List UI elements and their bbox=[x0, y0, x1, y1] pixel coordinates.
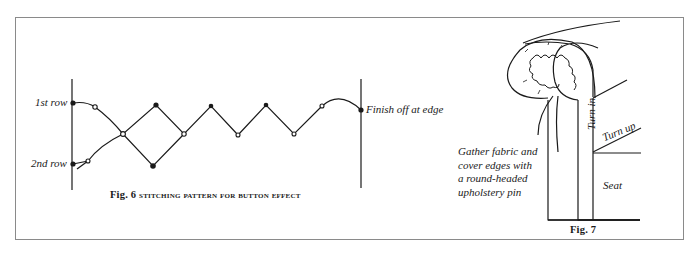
fig7-caption: Fig. 7 bbox=[570, 224, 596, 235]
label-turn-in: Turn in bbox=[586, 98, 597, 130]
first-row-stitch bbox=[73, 99, 361, 135]
note-line: cover edges with bbox=[458, 159, 537, 173]
arm-top-line bbox=[523, 21, 620, 43]
note-line: Gather fabric and bbox=[458, 145, 537, 159]
pointer-line-2 bbox=[557, 96, 559, 152]
label-second-row: 2nd row bbox=[31, 158, 67, 169]
label-finish-off: Finish off at edge bbox=[366, 104, 443, 115]
fig6-caption-text: Stitching pattern for button effect bbox=[139, 189, 300, 200]
label-first-row: 1st row bbox=[35, 97, 67, 108]
label-seat: Seat bbox=[603, 180, 622, 191]
pointer-line-1 bbox=[538, 96, 553, 135]
fig7-note: Gather fabric and cover edges with a rou… bbox=[458, 145, 537, 199]
fig6-caption: Fig. 6 Stitching pattern for button effe… bbox=[110, 189, 301, 200]
turn-in-top-line bbox=[593, 80, 627, 98]
note-line: a round-headed bbox=[458, 172, 537, 186]
note-line: upholstery pin bbox=[458, 186, 537, 200]
fig6-caption-number: Fig. 6 bbox=[110, 189, 136, 200]
